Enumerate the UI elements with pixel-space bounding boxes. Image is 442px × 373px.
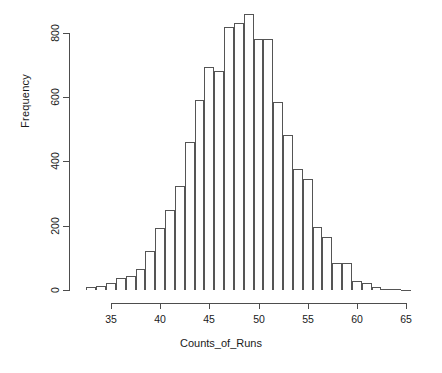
- histogram-bar: [342, 263, 352, 290]
- histogram-bar: [381, 289, 391, 290]
- histogram-bar: [332, 263, 342, 290]
- x-tick-35: [111, 303, 112, 309]
- x-tick-label-35: 35: [96, 313, 126, 325]
- histogram-bar: [126, 276, 136, 290]
- histogram-bar: [145, 251, 155, 290]
- histogram-bar: [303, 179, 313, 290]
- histogram-bar: [195, 100, 205, 290]
- histogram-bar: [106, 283, 116, 290]
- histogram-bar: [244, 14, 254, 290]
- histogram-bar: [185, 142, 195, 290]
- histogram-bar: [263, 39, 273, 290]
- x-tick-50: [259, 303, 260, 309]
- histogram-bar: [391, 289, 401, 290]
- x-tick-40: [160, 303, 161, 309]
- x-tick-label-55: 55: [293, 313, 323, 325]
- x-tick-60: [357, 303, 358, 309]
- histogram-bar: [155, 228, 165, 290]
- histogram-bar: [372, 287, 382, 290]
- x-axis-title: Counts_of_Runs: [0, 337, 442, 349]
- x-tick-label-40: 40: [145, 313, 175, 325]
- x-tick-label-50: 50: [244, 313, 274, 325]
- histogram-bar: [136, 269, 146, 290]
- histogram-bar: [165, 210, 175, 290]
- histogram-bar: [86, 287, 96, 290]
- histogram-bar: [362, 283, 372, 290]
- histogram-bar: [224, 27, 234, 290]
- x-tick-45: [209, 303, 210, 309]
- histogram-bar: [322, 237, 332, 290]
- histogram-bar: [116, 278, 126, 290]
- histogram-bar: [234, 23, 244, 290]
- x-tick-label-45: 45: [194, 313, 224, 325]
- histogram-bar: [175, 186, 185, 290]
- x-tick-label-60: 60: [342, 313, 372, 325]
- histogram-bar: [293, 169, 303, 290]
- histogram-bar: [313, 227, 323, 290]
- histogram-plot: 800 600 400 200 0 Frequency 35 40 45 50 …: [0, 0, 442, 373]
- histogram-bar: [352, 281, 362, 290]
- histogram-bar: [96, 286, 106, 291]
- histogram-bar: [214, 71, 224, 290]
- histogram-bar: [204, 67, 214, 290]
- histogram-bar: [401, 290, 411, 291]
- x-tick-55: [308, 303, 309, 309]
- histogram-bar: [254, 39, 264, 290]
- x-tick-65: [406, 303, 407, 309]
- x-tick-label-65: 65: [391, 313, 421, 325]
- histogram-bar: [283, 135, 293, 290]
- histogram-bar: [273, 102, 283, 290]
